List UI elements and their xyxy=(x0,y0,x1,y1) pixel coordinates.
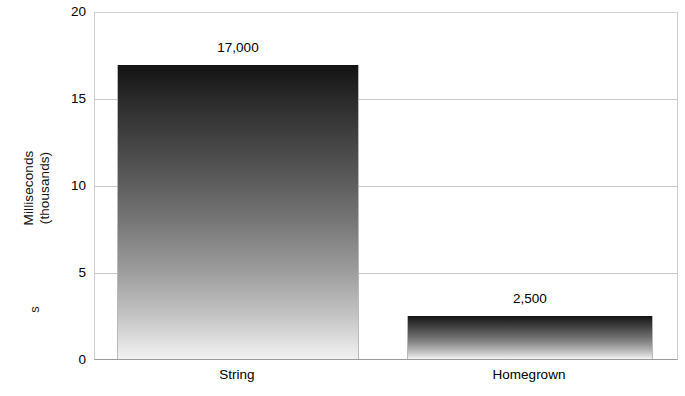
bar-string[interactable] xyxy=(117,65,359,359)
y-tick-label-10: 10 xyxy=(16,178,86,194)
bar-value-label-string: 17,000 xyxy=(117,40,359,56)
y-tick-label-0: 0 xyxy=(16,352,86,368)
plot-area: 17,000 2,500 xyxy=(94,12,678,360)
y-axis-tick-labels: 20 15 10 5 0 xyxy=(8,0,86,396)
category-label-string: String xyxy=(116,366,358,384)
bar-homegrown[interactable] xyxy=(407,316,653,359)
plot-inner: 17,000 2,500 xyxy=(95,13,677,359)
y-tick-label-20: 20 xyxy=(16,4,86,20)
bar-value-label-homegrown: 2,500 xyxy=(407,291,653,307)
y-tick-label-15: 15 xyxy=(16,91,86,107)
category-label-homegrown: Homegrown xyxy=(406,366,652,384)
bar-chart: Milliseconds (thousands) s 20 15 10 5 0 … xyxy=(0,0,685,396)
y-tick-label-5: 5 xyxy=(16,265,86,281)
